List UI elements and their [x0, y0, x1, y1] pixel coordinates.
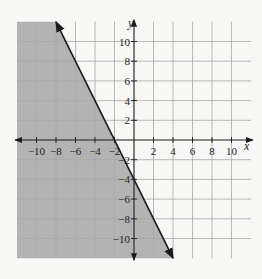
- x-tick-label: 8: [209, 145, 215, 157]
- x-tick-label: 2: [151, 145, 157, 157]
- y-tick-label: 10: [119, 36, 131, 48]
- y-tick-label: 2: [125, 114, 131, 126]
- y-tick-label: −8: [118, 213, 130, 225]
- x-tick-label: 6: [190, 145, 196, 157]
- y-tick-label: 4: [125, 95, 131, 107]
- y-tick-label: 8: [125, 55, 131, 67]
- y-tick-label: −4: [118, 173, 130, 185]
- x-tick-label: 10: [226, 145, 238, 157]
- x-tick-label: −10: [28, 145, 46, 157]
- x-tick-label: −8: [50, 145, 62, 157]
- y-tick-label: −6: [118, 193, 130, 205]
- inequality-graph: −10−8−6−4−2246810108642−2−4−6−8−10 x y: [0, 0, 262, 279]
- x-tick-label: 4: [170, 145, 176, 157]
- y-tick-label: 6: [125, 75, 131, 87]
- x-tick-label: −4: [89, 145, 101, 157]
- x-tick-label: −6: [70, 145, 82, 157]
- x-axis-label: x: [243, 139, 250, 153]
- y-tick-label: −10: [113, 233, 131, 245]
- y-axis-label: y: [127, 16, 134, 30]
